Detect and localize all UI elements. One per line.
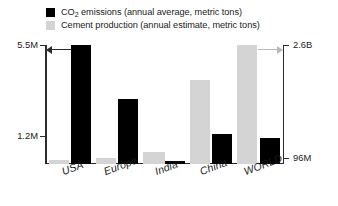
bar-group-china	[187, 45, 234, 164]
legend-label-cement: Cement production (annual estimate, metr…	[61, 20, 260, 31]
right-callout-arrow-line	[258, 49, 278, 50]
left-callout-arrow-head-icon	[46, 46, 52, 54]
bar-cement-china	[190, 80, 210, 164]
right-callout-arrow-head-icon	[277, 46, 283, 54]
legend-swatch-cement	[46, 21, 55, 30]
legend-swatch-co2	[46, 8, 55, 17]
plot-area: 5.5M 1.2M 2.6B 96M	[46, 45, 284, 164]
bar-cement-world	[237, 45, 257, 164]
bar-co2-usa	[71, 45, 91, 164]
category-axis-labels: USA Europe India China WORLD	[46, 166, 284, 206]
chart-legend: CO2 emissions (annual average, metric to…	[46, 6, 260, 31]
chart-root: CO2 emissions (annual average, metric to…	[0, 0, 338, 206]
bar-group-india	[140, 45, 187, 164]
bar-group-usa	[46, 45, 93, 164]
legend-item-cement: Cement production (annual estimate, metr…	[46, 19, 260, 31]
bar-group-world	[234, 45, 282, 164]
left-axis-label-bottom: 1.2M	[17, 130, 38, 141]
legend-label-co2: CO2 emissions (annual average, metric to…	[61, 7, 242, 18]
left-axis-label-top: 5.5M	[17, 39, 38, 50]
legend-item-co2: CO2 emissions (annual average, metric to…	[46, 6, 260, 18]
left-callout-arrow-line	[49, 49, 71, 50]
bars-container	[46, 45, 284, 164]
bar-group-europe	[93, 45, 140, 164]
right-axis-label-bottom: 96M	[293, 152, 311, 163]
right-axis-label-top: 2.6B	[293, 39, 312, 50]
